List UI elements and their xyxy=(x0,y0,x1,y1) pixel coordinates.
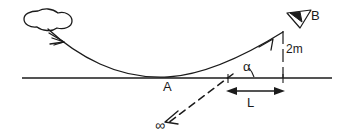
label-point-a: A xyxy=(163,80,172,93)
dashed-sight-line xyxy=(168,74,233,123)
cloud-shape xyxy=(24,9,72,31)
label-length-l: L xyxy=(247,96,254,109)
label-point-b: B xyxy=(311,9,320,22)
diagram-canvas xyxy=(0,0,347,138)
label-angle-alpha: α xyxy=(243,60,251,73)
label-infinity: ∞ xyxy=(155,118,165,132)
label-height-2m: 2m xyxy=(286,43,303,55)
length-dimension-arrow xyxy=(226,87,285,95)
incoming-arrow xyxy=(49,33,64,45)
eye-icon xyxy=(287,10,311,28)
physics-diagram: A B α L 2m ∞ xyxy=(0,0,347,138)
